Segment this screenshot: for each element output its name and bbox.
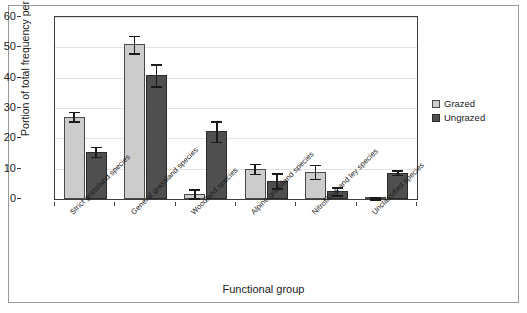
gridline <box>55 108 417 109</box>
y-tick-label: 50 <box>4 40 16 52</box>
legend-item: Grazed <box>432 97 485 110</box>
legend-label: Ungrazed <box>444 112 485 123</box>
y-tick-label: 20 <box>4 131 16 143</box>
error-bar-cap <box>272 173 283 175</box>
error-bar <box>156 64 158 86</box>
error-bar-cap <box>250 164 261 166</box>
error-bar-cap <box>69 112 80 114</box>
error-bar-cap <box>69 121 80 123</box>
error-bar-cap <box>392 170 403 172</box>
error-bar-cap <box>189 189 200 191</box>
error-bar <box>134 36 136 54</box>
x-axis-tick-labels: Strict grassland speciesGeneral grasslan… <box>54 202 418 284</box>
figure-bar-chart: 0102030405060 Portion of total frequency… <box>0 0 527 313</box>
y-tick-label: 0 <box>10 192 16 204</box>
error-bar-cap <box>129 53 140 55</box>
gridline <box>55 138 417 139</box>
error-bar-cap <box>211 121 222 123</box>
error-bar-cap <box>91 157 102 159</box>
x-tick-mark <box>356 202 357 206</box>
x-tick-mark <box>175 202 176 206</box>
x-axis-title: Functional group <box>0 283 527 295</box>
error-bar-cap <box>250 174 261 176</box>
error-bar <box>216 121 218 142</box>
gridline <box>55 78 417 79</box>
x-tick-mark <box>416 202 417 206</box>
gridline <box>55 47 417 48</box>
legend-label: Grazed <box>444 98 475 109</box>
bar-grazed <box>124 44 145 199</box>
error-bar-cap <box>91 147 102 149</box>
error-bar-cap <box>129 36 140 38</box>
grazed-swatch <box>432 100 440 108</box>
legend: GrazedUngrazed <box>428 93 489 128</box>
legend-item: Ungrazed <box>432 111 485 124</box>
y-tick-label: 40 <box>4 71 16 83</box>
gridline <box>55 17 417 18</box>
x-tick-mark <box>295 202 296 206</box>
y-tick-label: 10 <box>4 162 16 174</box>
ungrazed-swatch <box>432 114 440 122</box>
error-bar <box>315 165 317 179</box>
error-bar-cap <box>310 165 321 167</box>
error-bar-cap <box>310 179 321 181</box>
error-bar-cap <box>211 142 222 144</box>
x-tick-mark <box>114 202 115 206</box>
x-tick-mark <box>54 202 55 206</box>
error-bar-cap <box>151 86 162 88</box>
error-bar-cap <box>151 64 162 66</box>
bar-grazed <box>64 117 85 200</box>
y-tick-label: 60 <box>4 10 16 22</box>
y-axis-title: Portion of total frequency per plot[%] <box>19 0 31 146</box>
y-tick-mark <box>17 168 21 169</box>
error-bar-cap <box>392 175 403 177</box>
y-tick-mark <box>17 198 21 199</box>
y-tick-label: 30 <box>4 101 16 113</box>
x-tick-mark <box>235 202 236 206</box>
